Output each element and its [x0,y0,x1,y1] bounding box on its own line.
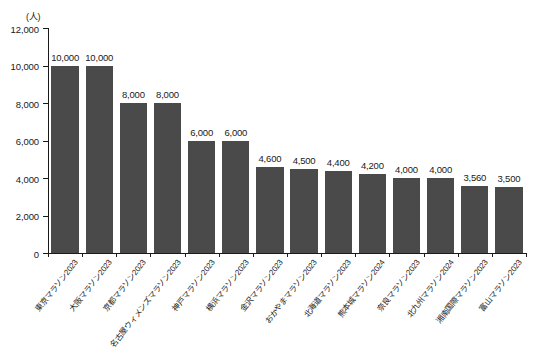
y-axis-tick-label: 10,000 [11,61,39,72]
bar [325,171,352,254]
bar [222,141,249,254]
bar [256,167,283,253]
bar-group: 4,400 [325,28,352,253]
bars-layer: 10,00010,0008,0008,0006,0006,0004,6004,5… [48,28,526,253]
y-axis-tick-label: 8,000 [16,98,39,109]
y-axis-tick-label: 2,000 [16,211,39,222]
bar-group: 3,560 [461,28,488,253]
bar-group: 4,600 [256,28,283,253]
bar-value-label: 4,600 [259,153,282,164]
bar-value-label: 8,000 [122,89,145,100]
bar-value-label: 3,560 [463,172,486,183]
y-axis-tick-label: 6,000 [16,136,39,147]
y-axis-tick: 4,000 [43,178,48,179]
bar-group: 8,000 [154,28,181,253]
bar [393,178,420,253]
bar-value-label: 6,000 [190,127,213,138]
bar [154,103,181,253]
bar-group: 6,000 [222,28,249,253]
bar-group: 3,500 [495,28,522,253]
bar-value-label: 6,000 [224,127,247,138]
y-axis-tick: 6,000 [43,141,48,142]
bar-value-label: 4,200 [361,160,384,171]
bar [461,186,488,253]
bar [120,103,147,253]
bar-group: 4,000 [427,28,454,253]
bar [290,169,317,253]
bar [86,66,113,254]
y-axis-unit-label: (人) [26,10,40,23]
bar [427,178,454,253]
bar-value-label: 8,000 [156,89,179,100]
bar-value-label: 4,500 [293,155,316,166]
y-axis-tick: 12,000 [43,28,48,29]
y-axis-tick-label: 4,000 [16,173,39,184]
bar-value-label: 10,000 [85,52,113,63]
y-axis-tick: 8,000 [43,103,48,104]
bar-value-label: 10,000 [51,52,79,63]
y-axis-tick-label: 12,000 [11,23,39,34]
bar-chart: (人) 10,00010,0008,0008,0006,0006,0004,60… [0,0,533,361]
bar-group: 4,200 [359,28,386,253]
bar-value-label: 3,500 [498,173,521,184]
bar-value-label: 4,000 [395,164,418,175]
bar-group: 10,000 [86,28,113,253]
bar-value-label: 4,000 [429,164,452,175]
bar-group: 4,500 [290,28,317,253]
bar-value-label: 4,400 [327,157,350,168]
y-axis-tick: 10,000 [43,66,48,67]
bar-group: 10,000 [51,28,78,253]
y-axis-tick: 2,000 [43,216,48,217]
bar [188,141,215,254]
plot-area: 10,00010,0008,0008,0006,0006,0004,6004,5… [48,28,526,253]
bar-group: 8,000 [120,28,147,253]
bar [51,66,78,254]
bar [359,174,386,253]
bar [495,187,522,253]
bar-group: 4,000 [393,28,420,253]
y-axis-tick-label: 0 [34,248,39,259]
bar-group: 6,000 [188,28,215,253]
x-axis-labels: 東京マラソン2023大阪マラソン2023京都マラソン2023名古屋ウィメンズマラ… [48,253,533,361]
